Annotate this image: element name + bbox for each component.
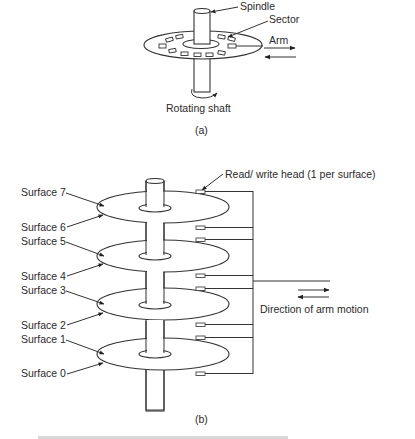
spindle (194, 11, 210, 44)
platter-2 (97, 222, 229, 272)
head-surface-2 (196, 323, 205, 327)
arm-motion-label: Direction of arm motion (260, 303, 369, 315)
caption-b: (b) (195, 413, 208, 425)
rotating-shaft-label: Rotating shaft (166, 102, 231, 114)
surface-7-label: Surface 7 (21, 186, 66, 198)
sector (228, 44, 236, 48)
surface-3-label: Surface 3 (21, 284, 66, 296)
head-surface-7 (196, 190, 205, 194)
surface-labels: Surface 7 Surface 6 Surface 5 Surface 4 … (21, 186, 104, 379)
surface-5-label: Surface 5 (21, 235, 66, 247)
head-surface-1 (196, 336, 205, 340)
disk-diagram: Spindle Sector Arm Rotating shaft (a) (0, 0, 415, 439)
arm-label: Arm (269, 34, 289, 46)
head-surface-3 (196, 287, 205, 291)
surface-2-label: Surface 2 (21, 319, 66, 331)
spindle-label: Spindle (240, 0, 275, 12)
head-surface-0 (196, 372, 205, 376)
head-surface-4 (196, 274, 205, 278)
surface-4-label: Surface 4 (21, 270, 66, 282)
surface-6-label: Surface 6 (21, 221, 66, 233)
sector-label: Sector (269, 13, 300, 25)
platter-3 (97, 271, 229, 320)
platter-4 (97, 320, 229, 370)
surface-1-label: Surface 1 (21, 333, 66, 345)
head-surface-6 (196, 226, 205, 230)
head-surface-5 (196, 238, 205, 242)
arm-assembly (205, 191, 330, 374)
caption-a: (a) (195, 124, 208, 136)
surface-0-label: Surface 0 (21, 367, 66, 379)
platter-1 (97, 179, 229, 224)
figure-a: Spindle Sector Arm Rotating shaft (a) (144, 0, 300, 136)
head-label: Read/ write head (1 per surface) (225, 168, 376, 180)
figure-b: Direction of arm motion Read/ write head… (21, 168, 376, 425)
